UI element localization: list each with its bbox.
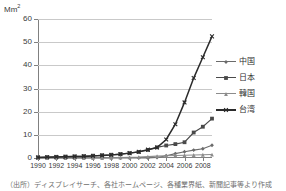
data-point-marker bbox=[201, 125, 205, 129]
data-point-marker bbox=[224, 92, 228, 96]
legend-marker-diamond-icon bbox=[216, 57, 236, 66]
legend-item-korea[interactable]: 韓国 bbox=[216, 89, 255, 98]
legend-item-japan[interactable]: 日本 bbox=[216, 73, 255, 82]
x-tick bbox=[185, 158, 186, 161]
legend-label-japan: 日本 bbox=[239, 73, 255, 82]
x-tick-label: 1990 bbox=[30, 162, 46, 170]
series-taiwan bbox=[36, 34, 214, 159]
data-point-marker bbox=[192, 148, 196, 152]
data-point-marker bbox=[210, 143, 214, 147]
data-point-marker bbox=[224, 76, 228, 80]
series-japan bbox=[36, 117, 214, 159]
x-tick-label: 1992 bbox=[49, 162, 65, 170]
legend-marker-triangle-icon bbox=[216, 89, 236, 98]
data-point-marker bbox=[224, 60, 228, 64]
y-tick-label: 10 bbox=[23, 131, 32, 139]
x-tick-label: 2006 bbox=[177, 162, 193, 170]
y-tick-label: 50 bbox=[23, 38, 32, 46]
y-tick-label: 20 bbox=[23, 108, 32, 116]
x-tick-label: 2000 bbox=[122, 162, 138, 170]
chart-figure: Mm2 0102030405060 1990199219941996199820… bbox=[0, 0, 286, 191]
y-tick-label: 40 bbox=[23, 61, 32, 69]
y-tick-label: 60 bbox=[23, 15, 32, 23]
source-caption: （出所）ディスプレイサーチ、各社ホームページ、各種業界紙、新聞記事等より作成 bbox=[6, 180, 272, 189]
legend-item-china[interactable]: 中国 bbox=[216, 57, 255, 66]
y-axis-unit-label: Mm2 bbox=[4, 2, 20, 14]
legend-label-taiwan: 台湾 bbox=[239, 105, 255, 114]
x-tick bbox=[166, 158, 167, 161]
legend-key-marker bbox=[222, 105, 231, 114]
legend-marker-cross-icon bbox=[216, 105, 236, 114]
x-tick-label: 2002 bbox=[140, 162, 156, 170]
legend-marker-square-icon bbox=[216, 73, 236, 82]
x-tick-label: 1996 bbox=[85, 162, 101, 170]
legend-item-taiwan[interactable]: 台湾 bbox=[216, 105, 255, 114]
data-point-marker bbox=[183, 140, 187, 144]
x-tick-label: 1994 bbox=[67, 162, 83, 170]
data-point-marker bbox=[224, 108, 228, 112]
legend-label-korea: 韓国 bbox=[239, 89, 255, 98]
data-series-layer bbox=[38, 19, 212, 158]
series-line bbox=[38, 36, 212, 157]
data-point-marker bbox=[164, 144, 168, 148]
data-point-marker bbox=[183, 150, 187, 154]
chart-legend: 中国 日本 韓国 台湾 bbox=[216, 57, 255, 114]
legend-label-china: 中国 bbox=[239, 57, 255, 66]
data-point-marker bbox=[173, 142, 177, 146]
x-tick-label: 2004 bbox=[158, 162, 174, 170]
legend-key-marker bbox=[222, 73, 231, 82]
plot-area: 0102030405060 19901992199419961998200020… bbox=[38, 19, 212, 158]
data-point-marker bbox=[201, 147, 205, 151]
x-tick-label: 1998 bbox=[103, 162, 119, 170]
y-tick-label: 30 bbox=[23, 85, 32, 93]
data-point-marker bbox=[192, 131, 196, 135]
x-tick bbox=[203, 158, 204, 161]
y-tick-label: 0 bbox=[28, 154, 32, 162]
legend-key-marker bbox=[222, 57, 231, 66]
legend-key-marker bbox=[222, 89, 231, 98]
data-point-marker bbox=[210, 117, 214, 121]
x-tick-label: 2008 bbox=[195, 162, 211, 170]
